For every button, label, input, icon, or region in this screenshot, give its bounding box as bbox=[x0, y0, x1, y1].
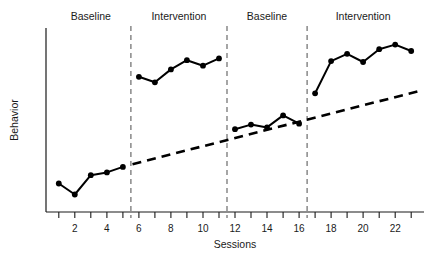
x-tick-label-22: 22 bbox=[390, 223, 402, 234]
phase-label-2: Baseline bbox=[247, 10, 287, 22]
data-point-3-5 bbox=[392, 42, 398, 48]
data-point-3-4 bbox=[376, 46, 382, 52]
x-axis-title: Sessions bbox=[214, 238, 257, 250]
phase-dividers-group bbox=[131, 26, 307, 218]
trend-line bbox=[133, 91, 421, 165]
x-tick-label-14: 14 bbox=[261, 223, 273, 234]
data-point-2-2 bbox=[264, 125, 270, 131]
data-point-3-3 bbox=[360, 59, 366, 65]
x-tick-label-6: 6 bbox=[136, 223, 142, 234]
data-point-0-1 bbox=[72, 192, 78, 198]
y-axis-title: Behavior bbox=[8, 99, 20, 141]
x-tick-label-2: 2 bbox=[72, 223, 78, 234]
behavior-sessions-chart: BaselineInterventionBaselineIntervention… bbox=[0, 0, 436, 264]
data-point-0-0 bbox=[56, 181, 62, 187]
data-point-0-3 bbox=[104, 170, 110, 176]
x-tick-label-8: 8 bbox=[168, 223, 174, 234]
phase-label-0: Baseline bbox=[71, 10, 111, 22]
data-point-2-0 bbox=[232, 126, 238, 132]
phase-label-3: Intervention bbox=[336, 10, 391, 22]
data-point-3-0 bbox=[312, 90, 318, 96]
x-tick-labels-group: 246810121416182022 bbox=[72, 223, 401, 234]
series-group bbox=[56, 42, 414, 198]
series-line-0 bbox=[59, 167, 123, 195]
chart-container: BaselineInterventionBaselineIntervention… bbox=[0, 0, 436, 264]
x-tick-label-16: 16 bbox=[294, 223, 306, 234]
x-tick-label-18: 18 bbox=[326, 223, 338, 234]
data-point-0-4 bbox=[120, 164, 126, 170]
x-tick-label-4: 4 bbox=[104, 223, 110, 234]
series-line-3 bbox=[315, 45, 411, 94]
data-point-3-1 bbox=[328, 58, 334, 64]
data-point-1-4 bbox=[200, 63, 206, 69]
data-point-1-2 bbox=[168, 67, 174, 73]
data-point-3-2 bbox=[344, 51, 350, 57]
data-point-2-1 bbox=[248, 122, 254, 128]
data-point-0-2 bbox=[88, 172, 94, 178]
series-line-1 bbox=[139, 58, 219, 82]
data-point-1-5 bbox=[216, 56, 222, 62]
data-point-1-3 bbox=[184, 57, 190, 63]
trend-line-group bbox=[133, 91, 421, 165]
x-tick-label-12: 12 bbox=[229, 223, 241, 234]
x-tick-marks-group bbox=[59, 212, 411, 218]
data-point-1-1 bbox=[152, 79, 158, 85]
data-point-2-4 bbox=[296, 121, 302, 127]
data-point-3-6 bbox=[408, 48, 414, 54]
phase-label-1: Intervention bbox=[151, 10, 206, 22]
axes-group bbox=[46, 28, 424, 212]
phase-labels-group: BaselineInterventionBaselineIntervention bbox=[71, 10, 391, 22]
x-tick-label-10: 10 bbox=[197, 223, 209, 234]
data-point-1-0 bbox=[136, 74, 142, 80]
x-tick-label-20: 20 bbox=[358, 223, 370, 234]
data-point-2-3 bbox=[280, 113, 286, 119]
